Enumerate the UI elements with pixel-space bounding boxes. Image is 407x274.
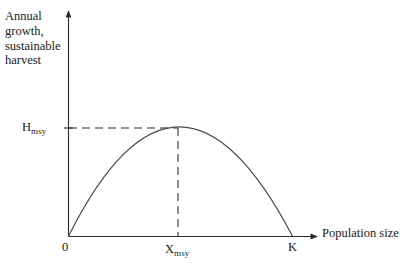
xmsy-subscript: msy (174, 248, 189, 258)
y-axis-title-line-3: sustainable (5, 39, 65, 54)
xmsy-base: X (165, 242, 174, 256)
x-tick-label-k: K (288, 240, 297, 255)
y-axis-title-line-2: growth, (5, 24, 65, 39)
x-axis-arrowhead (311, 234, 319, 240)
y-tick-label-hmsy: Hmsy (22, 120, 46, 135)
x-axis-title: Population size (322, 226, 399, 241)
hmsy-base: H (22, 120, 31, 134)
yield-curve (69, 127, 293, 236)
y-axis-arrowhead (66, 10, 72, 18)
x-tick-label-xmsy: Xmsy (165, 242, 189, 257)
y-axis-title: Annual growth, sustainable harvest (5, 9, 65, 68)
y-axis-title-line-4: harvest (5, 53, 65, 68)
hmsy-subscript: msy (31, 126, 46, 136)
y-axis-title-line-1: Annual (5, 9, 65, 24)
origin-label: 0 (62, 240, 68, 255)
sustainable-yield-diagram: Annual growth, sustainable harvest Popul… (0, 0, 407, 274)
